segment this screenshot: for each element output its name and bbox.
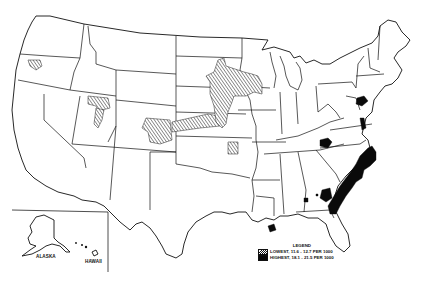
- legend: LEGEND LOWEST, 11.6 - 12.7 PER 1000 HIGH…: [258, 243, 334, 261]
- us-map: [0, 0, 427, 281]
- alaska-label: ALASKA: [36, 254, 56, 259]
- hawaii-shape: [75, 242, 98, 256]
- region-alabama: [304, 198, 308, 202]
- region-georgia-dot: [316, 194, 318, 196]
- legend-label-highest: HIGHEST, 18.1 - 21.5 PER 1000: [270, 255, 334, 261]
- solid-swatch-icon: [258, 255, 268, 261]
- legend-item-highest: HIGHEST, 18.1 - 21.5 PER 1000: [258, 255, 334, 261]
- region-louisiana: [268, 224, 276, 232]
- alaska-shape: [22, 215, 70, 256]
- hawaii-label: HAWAII: [85, 259, 102, 264]
- region-kansas-oklahoma: [228, 142, 238, 154]
- hatch-swatch-icon: [258, 249, 268, 255]
